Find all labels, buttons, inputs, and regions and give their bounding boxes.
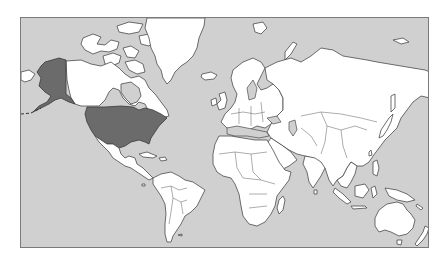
- hispaniola: [159, 157, 167, 161]
- sulawesi: [371, 186, 377, 198]
- cuba: [139, 152, 157, 158]
- world-map: [21, 18, 429, 248]
- svalbard: [253, 22, 267, 34]
- south-america: [153, 172, 205, 242]
- new-siberian-islands: [393, 38, 409, 44]
- philippines: [373, 160, 379, 176]
- australia: [375, 202, 415, 236]
- great-britain: [217, 92, 227, 110]
- greenland: [145, 18, 205, 84]
- falklands: [178, 234, 182, 236]
- world-map-frame: [20, 17, 429, 248]
- galapagos: [142, 184, 145, 186]
- tasmania: [397, 240, 402, 245]
- new-zealand: [415, 226, 429, 246]
- ireland: [211, 98, 217, 106]
- sri-lanka: [314, 190, 317, 194]
- java: [351, 206, 367, 209]
- new-guinea: [385, 188, 415, 202]
- chukotka-west: [21, 70, 35, 82]
- solomon-islands: [416, 204, 423, 210]
- usa-contiguous: [85, 106, 167, 148]
- novaya-zemlya: [285, 42, 297, 60]
- page: [0, 0, 448, 262]
- sumatra: [333, 188, 351, 204]
- madagascar: [277, 196, 285, 214]
- borneo: [355, 184, 369, 198]
- iceland: [201, 72, 217, 80]
